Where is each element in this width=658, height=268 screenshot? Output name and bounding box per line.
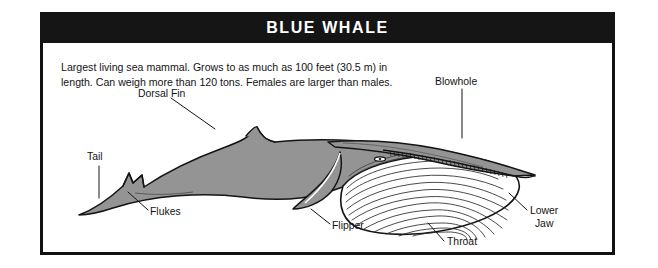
page-title: BLUE WHALE xyxy=(266,19,389,37)
leader-flipper xyxy=(311,209,330,224)
label-tail: Tail xyxy=(87,151,103,164)
label-flipper: Flipper xyxy=(332,220,364,233)
eye-pupil xyxy=(379,158,382,160)
leader-dorsal-fin xyxy=(171,98,215,129)
illustration-plate: Largest living sea mammal. Grows to as m… xyxy=(43,43,612,252)
label-lower-jaw: Lower Jaw xyxy=(530,205,558,230)
card-header-banner: BLUE WHALE xyxy=(40,12,615,43)
blue-whale-info-card: BLUE WHALE Largest living sea mammal. Gr… xyxy=(0,0,658,268)
label-flukes: Flukes xyxy=(150,206,181,219)
label-blowhole: Blowhole xyxy=(435,76,477,89)
label-throat: Throat xyxy=(447,236,477,249)
blue-whale-illustration xyxy=(43,43,612,252)
label-dorsal-fin: Dorsal Fin xyxy=(138,88,185,101)
